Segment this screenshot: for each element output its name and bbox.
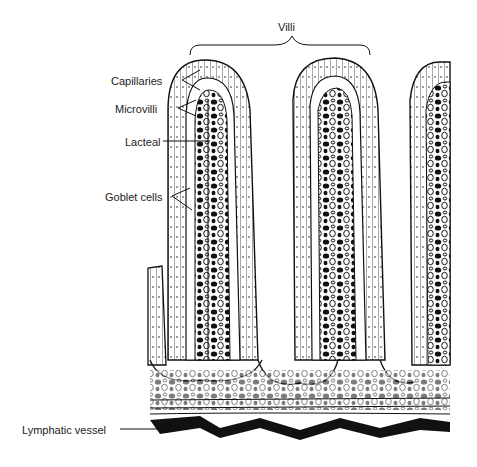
villi-bracket [190, 36, 370, 55]
villus-2 [293, 58, 385, 360]
lacteal-label: Lacteal [125, 136, 160, 148]
villi-label: Villi [278, 21, 295, 33]
villus-1 [168, 60, 258, 360]
submucosa [150, 370, 450, 414]
villi-diagram [0, 0, 477, 467]
goblet-cells-label: Goblet cells [105, 191, 162, 203]
lymphatic-vessel [150, 416, 450, 440]
microvilli-label: Microvilli [115, 103, 157, 115]
villus-3 [410, 62, 450, 365]
lymphatic-vessel-label: Lymphatic vessel [22, 424, 106, 436]
capillaries-label: Capillaries [111, 75, 162, 87]
villus-stub [148, 266, 166, 365]
